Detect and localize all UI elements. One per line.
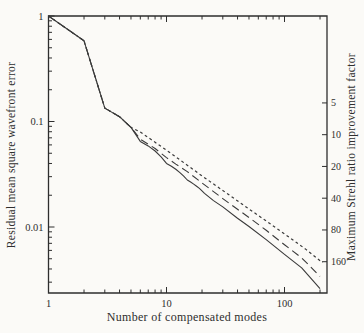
figure-canvas: 110100 10.10.01 510204080160 Number of c… xyxy=(0,0,364,333)
right-tick-label: 80 xyxy=(331,224,341,235)
series-lines xyxy=(49,16,323,289)
series-modal-compensation-short-dash xyxy=(49,16,323,263)
right-tick-label: 5 xyxy=(331,97,336,108)
y-axis-right-ticks: 510204080160 xyxy=(322,97,346,267)
plot-border xyxy=(49,16,328,293)
x-tick-label: 10 xyxy=(161,298,172,309)
y-tick-label: 0.1 xyxy=(30,116,43,127)
x-tick-label: 1 xyxy=(46,298,51,309)
y-tick-label: 1 xyxy=(38,11,43,22)
right-tick-label: 160 xyxy=(331,256,346,267)
right-tick-label: 40 xyxy=(331,193,341,204)
plot-frame xyxy=(49,16,328,293)
y-axis-title-right: Maximum Strehl ratio improvement factor xyxy=(345,53,357,261)
y-axis-title-left: Residual mean square wavefront error xyxy=(5,62,17,248)
y-axis-left-ticks: 10.10.01 xyxy=(25,11,54,283)
x-tick-label: 100 xyxy=(277,298,293,309)
series-modal-compensation-solid xyxy=(49,16,321,289)
y-tick-label: 0.01 xyxy=(25,222,43,233)
chart-canvas: 110100 10.10.01 510204080160 xyxy=(0,0,364,333)
right-tick-label: 10 xyxy=(331,129,341,140)
right-tick-label: 20 xyxy=(331,161,341,172)
series-modal-compensation-long-dash xyxy=(49,16,321,276)
x-axis-title: Number of compensated modes xyxy=(107,310,267,325)
